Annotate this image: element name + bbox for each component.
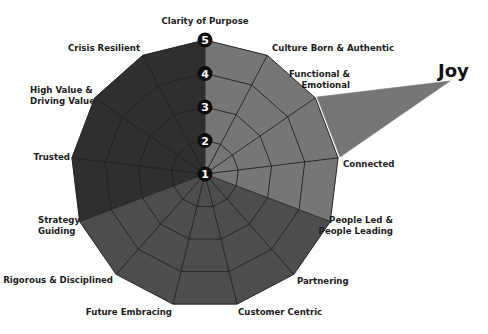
axis-label: People Led &People Leading: [319, 215, 394, 236]
level-marker-5: 5: [198, 33, 213, 48]
joy-annotation-label: Joy: [436, 60, 469, 81]
axis-label: Connected: [343, 159, 394, 169]
axis-label: Partnering: [297, 276, 349, 286]
joy-spike-shape: [317, 81, 450, 157]
level-number: 4: [201, 68, 209, 81]
level-number: 3: [201, 101, 209, 114]
axis-label: StrategyGuiding: [38, 215, 80, 236]
axis-label: Rigorous & Disciplined: [3, 275, 113, 285]
axis-label: Future Embracing: [86, 307, 172, 317]
axis-label: Culture Born & Authentic: [272, 43, 394, 53]
axis-label: Clarity of Purpose: [161, 16, 248, 26]
axis-label: Crisis Resilient: [68, 43, 140, 53]
level-marker-4: 4: [198, 66, 213, 81]
level-marker-3: 3: [198, 100, 213, 115]
radar-chart: 12345 Clarity of PurposeCulture Born & A…: [0, 0, 488, 334]
joy-spike: [317, 81, 450, 157]
axis-label: High Value &Driving Value: [30, 85, 95, 106]
axis-label: Trusted: [34, 152, 70, 162]
level-number: 1: [201, 168, 209, 181]
level-number: 5: [201, 34, 209, 47]
level-marker-1: 1: [198, 167, 213, 182]
axis-label: Customer Centric: [238, 307, 322, 317]
level-number: 2: [201, 135, 209, 148]
level-marker-2: 2: [198, 133, 213, 148]
